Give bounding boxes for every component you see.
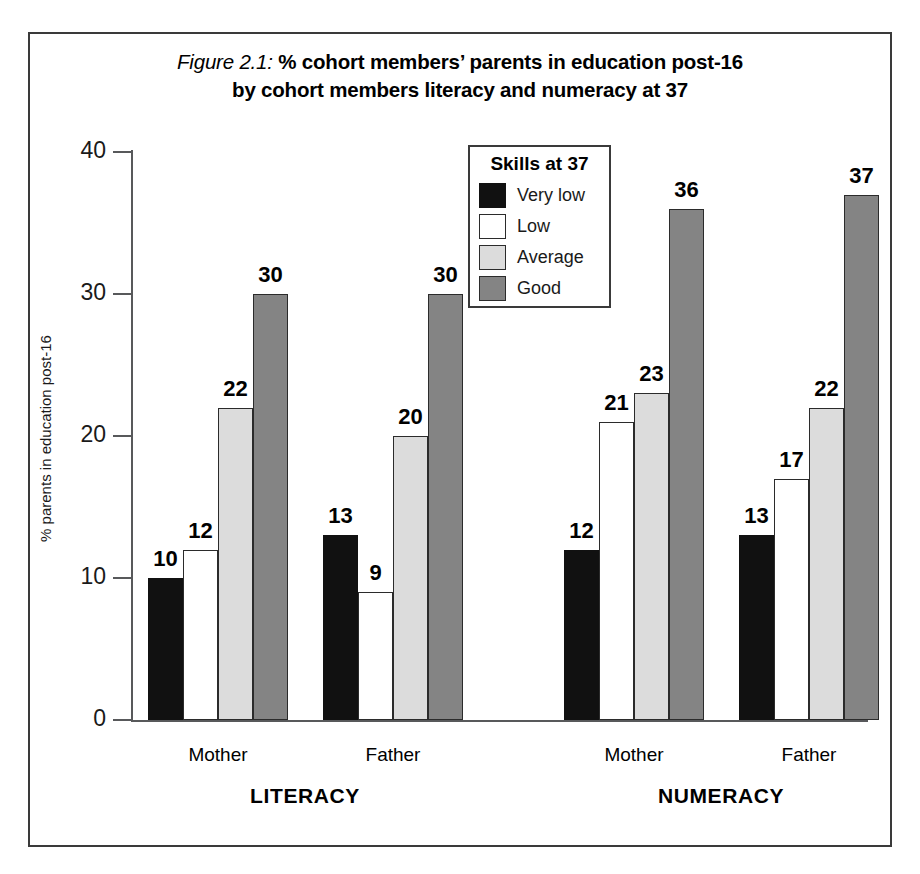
bar [564, 550, 599, 720]
bar-value-label: 30 [241, 262, 300, 288]
y-tick-mark [113, 435, 131, 437]
bar [148, 578, 183, 720]
bar [739, 535, 774, 720]
legend-entries: Very lowLowAverageGood [470, 180, 609, 304]
y-tick-label: 10 [46, 563, 106, 590]
bar-value-label: 36 [657, 177, 716, 203]
x-subgroup-label: Father [323, 744, 463, 766]
y-tick-mark [113, 577, 131, 579]
bar [844, 195, 879, 720]
legend-label: Good [517, 278, 561, 299]
bar [253, 294, 288, 720]
legend-swatch [479, 183, 506, 208]
y-tick-mark [113, 293, 131, 295]
bar-value-label: 13 [311, 503, 370, 529]
bar [774, 479, 809, 720]
y-tick-label: 30 [46, 279, 106, 306]
x-axis-line [131, 720, 868, 722]
y-tick-mark [113, 151, 131, 153]
legend-label: Average [517, 247, 584, 268]
y-tick-label: 0 [46, 705, 106, 732]
y-axis-line [131, 150, 133, 722]
bar-value-label: 37 [832, 163, 891, 189]
x-subgroup-label: Mother [148, 744, 288, 766]
legend-label: Very low [517, 185, 585, 206]
legend-swatch [479, 245, 506, 270]
legend-swatch [479, 276, 506, 301]
legend-label: Low [517, 216, 550, 237]
bar [428, 294, 463, 720]
figure-page: Figure 2.1: % cohort members’ parents in… [0, 0, 920, 874]
bar [183, 550, 218, 720]
y-tick-label: 40 [46, 137, 106, 164]
bar [393, 436, 428, 720]
legend-entry: Very low [470, 180, 609, 211]
bar [809, 408, 844, 720]
legend-entry: Good [470, 273, 609, 304]
bar [669, 209, 704, 720]
x-subgroup-label: Mother [564, 744, 704, 766]
bar [358, 592, 393, 720]
legend-entry: Average [470, 242, 609, 273]
x-group-label: LITERACY [195, 784, 415, 808]
legend-entry: Low [470, 211, 609, 242]
bar-value-label: 30 [416, 262, 475, 288]
bar [218, 408, 253, 720]
legend-title: Skills at 37 [470, 153, 609, 175]
legend: Skills at 37 Very lowLowAverageGood [468, 145, 611, 308]
legend-swatch [479, 214, 506, 239]
bar [599, 422, 634, 720]
x-group-label: NUMERACY [611, 784, 831, 808]
bar [634, 393, 669, 720]
x-subgroup-label: Father [739, 744, 879, 766]
plot-area: % parents in education post-16 010203040… [0, 0, 920, 874]
y-tick-mark [113, 719, 131, 721]
y-tick-label: 20 [46, 421, 106, 448]
